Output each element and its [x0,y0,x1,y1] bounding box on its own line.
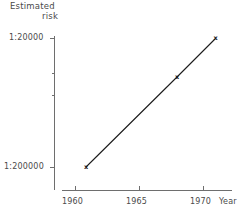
risk-trend-line [86,39,215,167]
x-axis-tick-label-1965: 1965 [126,197,147,206]
x-axis-tick-label-1960: 1960 [62,197,83,206]
data-point-marker: x [213,34,218,42]
y-axis-tick-label-bottom: 1:200000 [4,162,44,171]
y-axis-tick-label-top: 1:20000 [9,33,44,42]
x-axis-tick-label-1970: 1970 [190,197,211,206]
chart-title-line-1: Estimated [10,1,55,11]
x-axis-title: Year [219,197,237,206]
chart-title-line-2: risk [42,11,58,21]
chart-container: x x x Estimated risk 1:20000 1:200000 19… [0,0,246,223]
